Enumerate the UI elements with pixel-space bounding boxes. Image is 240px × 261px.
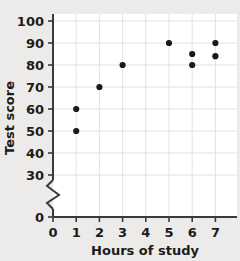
- y-tick-label: 80: [26, 58, 44, 73]
- chart-canvas: 01234567 030405060708090100 Hours of stu…: [0, 0, 240, 261]
- data-point: [120, 62, 126, 68]
- x-tick-label: 1: [72, 225, 81, 240]
- y-tick-label: 60: [26, 102, 44, 117]
- y-tick-label: 50: [26, 124, 44, 139]
- x-tick-label: 6: [188, 225, 197, 240]
- y-tick-label: 90: [26, 36, 44, 51]
- data-point: [73, 128, 79, 134]
- y-tick-label: 70: [26, 80, 44, 95]
- data-point: [73, 106, 79, 112]
- scatter-chart: 01234567 030405060708090100 Hours of stu…: [0, 0, 240, 261]
- data-point: [166, 40, 172, 46]
- plot-area: [53, 14, 237, 217]
- x-tick-label: 3: [118, 225, 127, 240]
- y-tick-label: 30: [26, 168, 44, 183]
- data-point: [212, 53, 218, 59]
- data-point: [212, 40, 218, 46]
- y-tick-label: 40: [26, 146, 44, 161]
- x-tick-label: 7: [211, 225, 220, 240]
- y-tick-label: 0: [35, 210, 44, 225]
- x-tick-label: 0: [48, 225, 57, 240]
- x-tick-label: 2: [95, 225, 104, 240]
- y-tick-label: 100: [17, 14, 44, 29]
- x-tick-label: 4: [141, 225, 150, 240]
- x-axis-title: Hours of study: [91, 243, 199, 258]
- data-point: [96, 84, 102, 90]
- y-axis-title: Test score: [2, 81, 17, 155]
- x-tick-label: 5: [164, 225, 173, 240]
- data-point: [189, 51, 195, 57]
- data-point: [189, 62, 195, 68]
